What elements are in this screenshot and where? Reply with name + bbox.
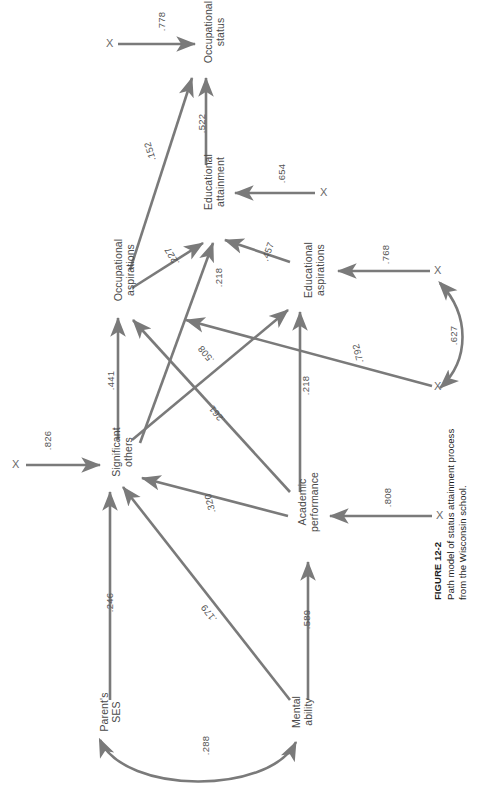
coefficient-768: .768 (380, 245, 391, 264)
coefficient-654: .654 (276, 164, 287, 183)
node-label-line1: Parent's (98, 693, 110, 732)
node-mental-ability: Mental ability (290, 676, 314, 748)
node-label-line1: Educational (302, 242, 314, 298)
node-educational-aspirations: Educational aspirations (302, 234, 326, 306)
coefficient-778: .778 (156, 12, 167, 31)
coefficient-218-acad-asp: .218 (300, 376, 311, 395)
coefficient-522: .522 (196, 114, 207, 133)
path-diagram-canvas (0, 0, 489, 788)
coefficient-808: .808 (382, 488, 393, 507)
coefficient-441: .441 (105, 371, 116, 390)
node-occupational-aspirations: Occupational aspirations (112, 234, 136, 306)
node-educational-attainment: Educational attainment (202, 146, 226, 218)
figure-caption-label: FIGURE 12-2 (432, 412, 445, 600)
node-label-line2: status (214, 18, 226, 47)
node-label-line2: performance (308, 472, 320, 532)
node-significant-others: Significant others (110, 416, 134, 488)
node-occupational-status: Occupational status (202, 0, 226, 68)
coefficient-246: .246 (104, 593, 115, 612)
node-label-line1: Academic (296, 479, 308, 526)
node-label-line1: Significant (110, 427, 122, 477)
curve-parents-ses-mental-ability (100, 740, 296, 782)
coefficient-288: .288 (200, 736, 211, 755)
node-label-line1: Mental (290, 696, 302, 728)
x-mark-educational-attainment: X (320, 186, 327, 198)
node-label-line2: aspirations (314, 244, 326, 296)
coefficient-218-sig-att: .218 (213, 268, 224, 287)
node-label-line1: Occupational (112, 239, 124, 302)
x-mark-occupational-status: X (106, 37, 113, 49)
arrow-significant-others-to-educational-attainment (140, 243, 213, 443)
figure-caption-text: Path model of status attainment process … (445, 412, 470, 600)
node-parents-ses: Parent's SES (98, 676, 122, 748)
arrow-educational-aspirations-to-educational-attainment (225, 240, 290, 262)
node-label-line2: others (122, 437, 134, 467)
node-academic-performance: Academic performance (296, 466, 320, 538)
node-label-line2: aspirations (124, 244, 136, 296)
coefficient-826: .826 (42, 431, 53, 450)
node-label-line2: attainment (214, 157, 226, 207)
arrow-occupational-aspirations-to-occupational-status (130, 78, 192, 270)
x-mark-occupational-aspirations: X (434, 380, 441, 392)
node-label-line1: Educational (202, 154, 214, 210)
coefficient-589: .589 (301, 610, 312, 629)
figure-container: Occupational status Educational attainme… (0, 0, 489, 788)
coefficient-627: .627 (448, 326, 459, 345)
figure-caption: FIGURE 12-2 Path model of status attainm… (432, 412, 470, 600)
node-label-line2: ability (302, 698, 314, 726)
node-label-line1: Occupational (202, 1, 214, 64)
x-mark-educational-aspirations: X (434, 264, 441, 276)
node-label-line2: SES (110, 701, 122, 722)
arrow-significant-others-to-educational-aspirations (132, 310, 288, 440)
arrow-mental-ability-to-significant-others (123, 487, 290, 700)
x-mark-significant-others: X (12, 458, 19, 470)
